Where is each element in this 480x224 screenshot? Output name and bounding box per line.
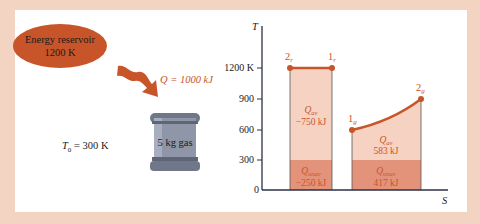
tick-1200: 1200 K (224, 62, 255, 73)
energy-reservoir (13, 24, 107, 68)
tick-600: 600 (239, 124, 254, 135)
surroundings-temperature: T0 = 300 K (62, 140, 109, 154)
reservoir-qunav-value: −250 kJ (296, 178, 327, 188)
gas-qunav-value: 417 kJ (373, 178, 398, 188)
label-1r: 1r (328, 51, 336, 64)
reservoir-qav-value: −750 kJ (296, 117, 327, 127)
reservoir-label-2: 1200 K (44, 47, 76, 58)
tank-label: 5 kg gas (158, 137, 193, 148)
tick-0: 0 (254, 184, 259, 195)
point-1r (329, 65, 335, 71)
label-2r: 2r (285, 51, 293, 64)
y-axis-label: T (252, 21, 259, 32)
point-2g (418, 96, 424, 102)
heat-transfer-label: Q = 1000 kJ (160, 74, 214, 85)
point-2r (287, 65, 293, 71)
reservoir-label-1: Energy reservoir (25, 34, 96, 45)
diagram: Energy reservoir 1200 K Q = 1000 kJ T0 =… (0, 0, 480, 224)
x-axis-label: S (442, 195, 448, 206)
gas-qav-value: 583 kJ (373, 146, 398, 156)
label-1g: 1g (348, 113, 357, 126)
tick-300: 300 (239, 154, 254, 165)
heat-arrow-icon (117, 66, 158, 97)
point-1g (349, 127, 355, 133)
tick-900: 900 (239, 93, 254, 104)
label-2g: 2g (416, 82, 425, 95)
